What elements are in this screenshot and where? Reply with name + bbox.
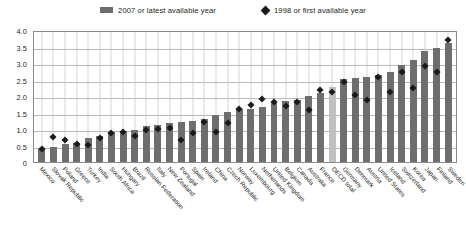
bar-group[interactable] [152,32,164,162]
bar[interactable] [236,109,243,162]
x-label-slot: Mexico [35,164,47,224]
bar-group[interactable] [199,32,211,162]
x-gridline [53,32,54,162]
bar[interactable] [189,121,196,162]
bar[interactable] [352,78,359,162]
bar-swatch-icon [100,7,113,13]
bar-group[interactable] [257,32,269,162]
bar-group[interactable] [59,32,71,162]
bar-group[interactable] [210,32,222,162]
y-axis-tick-label: 4.0 [16,27,27,36]
y-axis-tick-label: 3.5 [16,43,27,52]
y-axis-tick-label: 0 [23,159,27,168]
legend-label-bars: 2007 or latest available year [118,6,216,15]
x-label-slot: Slovak Republic [47,164,59,224]
x-label-slot: Ireland [198,164,210,224]
y-axis-tick-label: 3.0 [16,60,27,69]
bar-group[interactable] [349,32,361,162]
bar-group[interactable] [71,32,83,162]
x-label-slot: New Zealand [163,164,175,224]
x-label-slot: China [210,164,222,224]
bar-group[interactable] [48,32,60,162]
y-axis-tick-label: 1.0 [16,126,27,135]
legend-item-diamonds: 1998 or first available year [262,6,366,15]
bar-group[interactable] [175,32,187,162]
bar[interactable] [329,87,336,162]
bar-group[interactable] [140,32,152,162]
bar-group[interactable] [315,32,327,162]
bar-group[interactable] [268,32,280,162]
bar-group[interactable] [245,32,257,162]
diamond-marker[interactable] [259,95,266,102]
bar-group[interactable] [164,32,176,162]
bar[interactable] [387,72,394,162]
bar[interactable] [108,132,115,162]
x-gridline [41,32,42,162]
x-label-slot: Finland [432,164,444,224]
bar[interactable] [340,79,347,162]
bar-group[interactable] [129,32,141,162]
y-axis-tick-label: 2.5 [16,76,27,85]
bar-group[interactable] [396,32,408,162]
diamond-marker[interactable] [50,133,57,140]
bar-group[interactable] [338,32,350,162]
x-label-slot: Netherlands [257,164,269,224]
bar-group[interactable] [82,32,94,162]
bar[interactable] [50,147,57,162]
bar-group[interactable] [361,32,373,162]
y-axis-tick-label: 1.5 [16,109,27,118]
legend-label-diamonds: 1998 or first available year [274,6,366,15]
x-label-slot: OECD total [327,164,339,224]
bar[interactable] [317,93,324,162]
x-label-slot: Poland [58,164,70,224]
bar[interactable] [62,144,69,162]
x-label-slot: Australia [303,164,315,224]
x-label-slot: United States [373,164,385,224]
x-label-slot: Germany [338,164,350,224]
bar[interactable] [398,65,405,162]
bar-group[interactable] [442,32,454,162]
x-label-slot: Iceland [385,164,397,224]
x-label-slot: Italy [152,164,164,224]
x-label-slot: Canada [292,164,304,224]
bar-group[interactable] [106,32,118,162]
bar-group[interactable] [419,32,431,162]
bar-group[interactable] [117,32,129,162]
x-label-slot: United Kingdom [268,164,280,224]
y-axis: 4.03.53.02.52.01.51.00.50 [0,31,31,163]
bar[interactable] [410,60,417,162]
bar-group[interactable] [326,32,338,162]
bar-group[interactable] [280,32,292,162]
bar-group[interactable] [303,32,315,162]
bar[interactable] [259,107,266,162]
bar-group[interactable] [408,32,420,162]
bar-group[interactable] [431,32,443,162]
bar[interactable] [294,100,301,162]
bar[interactable] [375,75,382,162]
bar-group[interactable] [233,32,245,162]
bar-group[interactable] [36,32,48,162]
bar[interactable] [433,48,440,162]
x-label-slot: Hungary [117,164,129,224]
x-label-slot: South Africa [105,164,117,224]
x-label-slot: Sweden [444,164,456,224]
bar[interactable] [201,119,208,162]
x-label-slot: France [315,164,327,224]
bar-group[interactable] [222,32,234,162]
x-label-slot: Austria [362,164,374,224]
bar[interactable] [247,109,254,162]
bar[interactable] [445,43,452,162]
gridline [34,49,456,50]
bar-group[interactable] [187,32,199,162]
x-label-slot: Japan [420,164,432,224]
bar[interactable] [271,103,278,162]
x-label-slot: Belgium [280,164,292,224]
bar[interactable] [363,77,370,162]
bar-group[interactable] [94,32,106,162]
bar-group[interactable] [373,32,385,162]
bar-group[interactable] [384,32,396,162]
bar[interactable] [282,101,289,162]
y-axis-tick-label: 2.0 [16,93,27,102]
bar[interactable] [212,115,219,162]
bar-group[interactable] [291,32,303,162]
